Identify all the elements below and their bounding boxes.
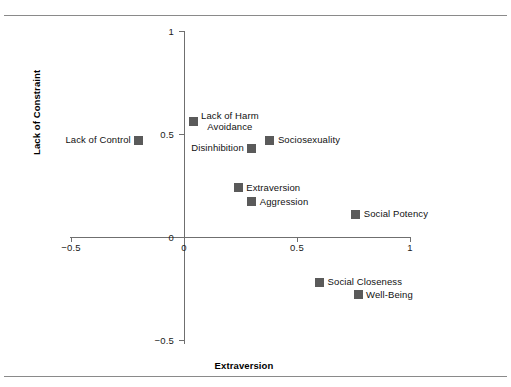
x-tick-label: −0.5	[61, 242, 81, 253]
data-point-label: Extraversion	[246, 182, 300, 193]
data-point-marker	[354, 290, 363, 299]
data-point-label: Lack of HarmAvoidance	[201, 110, 259, 132]
data-point-label: Aggression	[260, 196, 309, 207]
data-point-marker	[234, 183, 243, 192]
data-point-marker	[134, 136, 143, 145]
x-tick-label: 0	[181, 242, 186, 253]
y-tick-mark	[179, 134, 184, 135]
x-tick-label: 1	[407, 242, 412, 253]
data-point-marker	[247, 144, 256, 153]
data-point-marker	[265, 136, 274, 145]
data-point-label-line2: Avoidance	[201, 121, 259, 132]
data-point-marker	[247, 197, 256, 206]
data-point-label: Well-Being	[366, 289, 413, 300]
y-tick-label: −0.5	[0, 335, 174, 346]
data-point-label: Disinhibition	[191, 142, 244, 153]
data-point-label: Sociosexuality	[278, 134, 340, 145]
data-point-label: Lack of Control	[65, 134, 130, 145]
data-point-marker	[351, 210, 360, 219]
y-axis-title: Lack of Constraint	[31, 70, 42, 155]
y-tick-mark	[179, 31, 184, 32]
top-divider-rule	[4, 15, 507, 16]
y-axis-line	[184, 31, 185, 344]
y-tick-mark	[179, 340, 184, 341]
bottom-divider-rule	[4, 376, 507, 377]
data-point-marker	[315, 278, 324, 287]
data-point-marker	[189, 117, 198, 126]
x-tick-label: 0.5	[290, 242, 304, 253]
data-point-label-line1: Lack of Harm	[201, 110, 259, 121]
scatter-plot-figure: −0.500.5110.50−0.5 Lack of ControlLack o…	[0, 0, 511, 387]
x-axis-title: Extraversion	[215, 360, 274, 371]
data-point-label: Social Closeness	[328, 276, 402, 287]
y-tick-label: 0	[0, 232, 174, 243]
data-point-label: Social Potency	[364, 208, 428, 219]
y-tick-label: 1	[0, 26, 174, 37]
